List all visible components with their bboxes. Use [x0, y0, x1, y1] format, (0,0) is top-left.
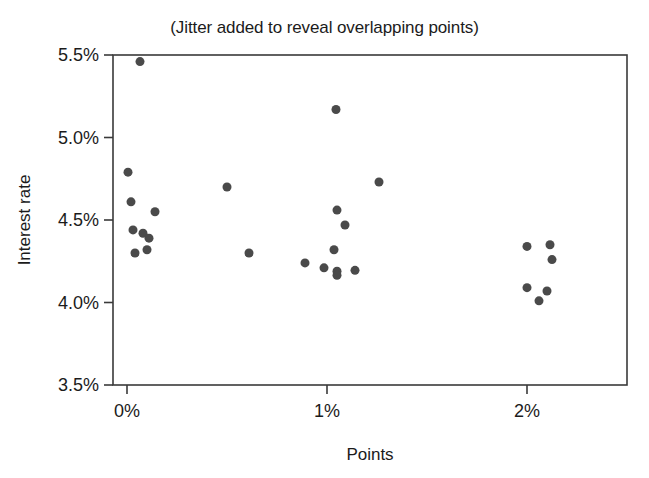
data-point	[330, 245, 339, 254]
x-axis-ticks	[127, 385, 527, 394]
y-tick-label: 4.5%	[58, 210, 99, 230]
data-point	[136, 57, 145, 66]
data-point	[151, 207, 160, 216]
data-point	[333, 206, 342, 215]
data-point	[523, 242, 532, 251]
data-point	[546, 240, 555, 249]
data-point	[127, 197, 136, 206]
y-tick-label: 4.0%	[58, 293, 99, 313]
x-tick-label: 2%	[514, 401, 540, 421]
y-axis-tick-labels: 3.5%4.0%4.5%5.0%5.5%	[58, 45, 99, 395]
data-point	[543, 286, 552, 295]
data-point	[332, 105, 341, 114]
scatter-plot-figure: (Jitter added to reveal overlapping poin…	[0, 0, 649, 478]
y-tick-label: 5.5%	[58, 45, 99, 65]
y-axis-ticks	[104, 55, 113, 385]
data-points-layer	[124, 57, 557, 305]
y-tick-label: 5.0%	[58, 128, 99, 148]
data-point	[301, 258, 310, 267]
y-tick-label: 3.5%	[58, 375, 99, 395]
data-point	[351, 266, 360, 275]
plot-frame	[113, 55, 627, 385]
plot-canvas: 3.5%4.0%4.5%5.0%5.5% 0%1%2% Points Inter…	[0, 0, 649, 478]
data-point	[548, 255, 557, 264]
data-point	[143, 245, 152, 254]
x-axis-title: Points	[346, 445, 393, 464]
data-point	[320, 263, 329, 272]
data-point	[375, 178, 384, 187]
data-point	[535, 296, 544, 305]
data-point	[223, 183, 232, 192]
x-tick-label: 1%	[314, 401, 340, 421]
data-point	[129, 225, 138, 234]
data-point	[341, 220, 350, 229]
data-point	[145, 234, 154, 243]
x-tick-label: 0%	[114, 401, 140, 421]
y-axis-title: Interest rate	[15, 175, 34, 266]
data-point	[245, 249, 254, 258]
data-point	[124, 168, 133, 177]
data-point	[523, 283, 532, 292]
x-axis-tick-labels: 0%1%2%	[114, 401, 540, 421]
data-point	[131, 249, 140, 258]
data-point	[333, 271, 342, 280]
